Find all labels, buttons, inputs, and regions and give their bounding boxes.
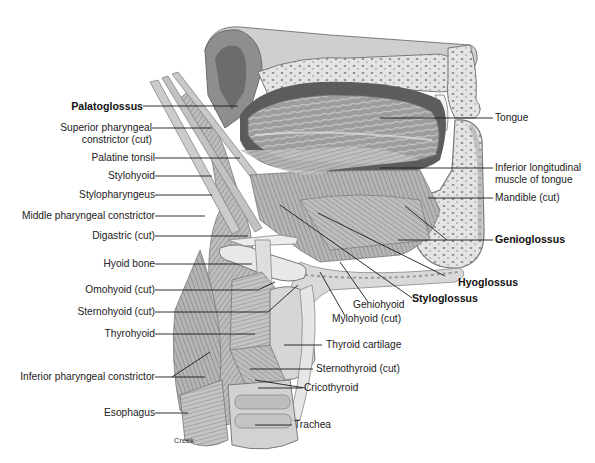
label-esophagus: Esophagus	[104, 407, 155, 419]
label-thyroid-cartilage: Thyroid cartilage	[326, 339, 401, 351]
anatomical-illustration	[0, 0, 595, 463]
label-thyrohyoid: Thyrohyoid	[105, 328, 155, 340]
label-superior-pharyngeal-constrictor: Superior pharyngeal constrictor (cut)	[60, 122, 152, 146]
label-inferior-longitudinal-muscle: Inferior longitudinal muscle of tongue	[495, 162, 581, 186]
label-omohyoid: Omohyoid (cut)	[85, 284, 155, 296]
label-stylohyoid: Stylohyoid	[108, 170, 155, 182]
label-hyoglossus: Hyoglossus	[458, 276, 518, 288]
label-stylopharyngeus: Stylopharyngeus	[79, 189, 155, 201]
label-sternohyoid: Sternohyoid (cut)	[77, 306, 155, 318]
label-hyoid-bone: Hyoid bone	[103, 258, 155, 270]
label-palatine-tonsil: Palatine tonsil	[92, 152, 155, 164]
label-sternothyroid: Sternothyroid (cut)	[316, 363, 400, 375]
label-mylohyoid: Mylohyoid (cut)	[332, 313, 401, 325]
label-mandible: Mandible (cut)	[495, 192, 560, 204]
label-geniohyoid: Geniohyoid	[353, 299, 405, 311]
label-middle-pharyngeal-constrictor: Middle pharyngeal constrictor	[22, 210, 155, 222]
label-digastric: Digastric (cut)	[92, 230, 155, 242]
label-cricothyroid: Cricothyroid	[304, 382, 358, 394]
artist-signature: Creek	[174, 435, 194, 447]
label-styloglossus: Styloglossus	[412, 292, 478, 304]
trachea-esophagus	[180, 380, 298, 449]
label-inferior-pharyngeal-constrictor: Inferior pharyngeal constrictor	[20, 371, 155, 383]
label-genioglossus: Genioglossus	[495, 233, 565, 245]
label-trachea: Trachea	[294, 419, 331, 431]
label-palatoglossus: Palatoglossus	[71, 100, 143, 112]
label-tongue: Tongue	[495, 112, 528, 124]
